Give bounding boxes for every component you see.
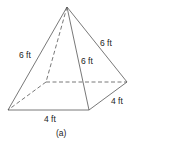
pyramid-diagram: 6 ft 6 ft 6 ft 4 ft 4 ft (a) — [0, 0, 173, 160]
label-base-front: 4 ft — [44, 114, 56, 124]
label-base-side: 4 ft — [111, 96, 123, 106]
edge-apex-frontleft — [8, 7, 67, 110]
hidden-edge-apex-backleft — [46, 7, 67, 82]
edge-apex-backright — [67, 7, 127, 82]
label-slant-left: 6 ft — [19, 50, 31, 60]
hidden-edge-left — [8, 82, 46, 110]
figure-caption: (a) — [56, 128, 67, 138]
label-slant-front: 6 ft — [81, 56, 93, 66]
label-slant-right: 6 ft — [100, 38, 112, 48]
